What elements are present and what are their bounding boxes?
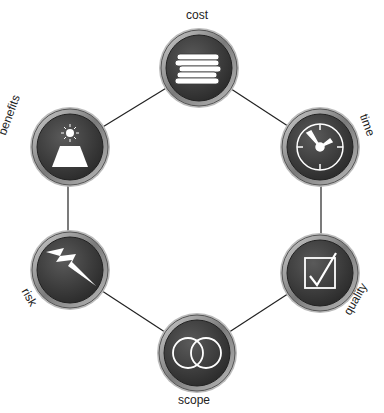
node-benefits — [30, 107, 110, 187]
node-scope — [157, 313, 237, 393]
label-scope: scope — [178, 393, 210, 407]
node-cost — [159, 28, 239, 108]
coin-stack-icon — [175, 54, 221, 84]
node-risk — [30, 230, 110, 310]
label-cost: cost — [186, 8, 208, 22]
edges — [68, 68, 321, 353]
project-constraints-cycle-diagram — [0, 0, 384, 413]
node-time — [280, 107, 360, 187]
